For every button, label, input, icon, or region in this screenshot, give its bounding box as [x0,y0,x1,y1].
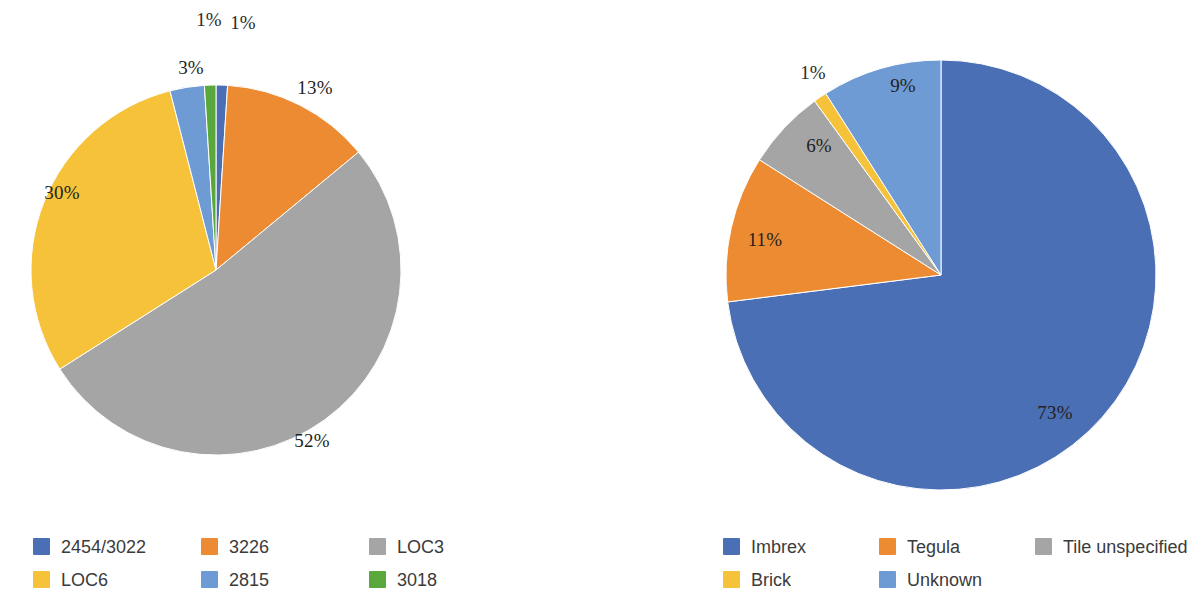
legend-swatch-tile-unspecified [1035,538,1052,555]
pie-slice-percent-label: 6% [806,135,832,156]
right-pie-svg: 73%11%6%1%9% [603,0,1203,520]
pie-slice-percent-label: 11% [748,229,783,250]
legend-item-3226[interactable]: 3226 [201,530,369,563]
legend-item-unknown[interactable]: Unknown [879,563,1035,596]
legend-swatch-imbrex [723,538,740,555]
legend-swatch-loc6 [33,571,50,588]
pie-slice-percent-label: 9% [890,75,916,96]
left-pie-legend: 2454/3022 3226 LOC3 LOC6 2815 3018 [33,530,537,596]
legend-item-2454-3022[interactable]: 2454/3022 [33,530,201,563]
legend-swatch-2815 [201,571,218,588]
pie-slice-percent-label: 3% [178,57,204,78]
legend-label-3018: 3018 [397,571,437,589]
right-pie-chart-panel: 73%11%6%1%9% Imbrex Tegula Tile unspecif… [603,0,1203,605]
legend-swatch-2454-3022 [33,538,50,555]
legend-item-brick[interactable]: Brick [723,563,879,596]
legend-label-loc6: LOC6 [61,571,108,589]
legend-item-2815[interactable]: 2815 [201,563,369,596]
legend-swatch-loc3 [369,538,386,555]
legend-label-imbrex: Imbrex [751,538,806,556]
legend-swatch-brick [723,571,740,588]
legend-swatch-3226 [201,538,218,555]
pie-slice-percent-label: 52% [294,430,329,451]
legend-item-imbrex[interactable]: Imbrex [723,530,879,563]
pie-slice-percent-label: 73% [1037,402,1072,423]
legend-item-loc3[interactable]: LOC3 [369,530,537,563]
legend-item-tegula[interactable]: Tegula [879,530,1035,563]
right-pie-legend: Imbrex Tegula Tile unspecified Brick Unk… [723,530,1203,596]
legend-label-2815: 2815 [229,571,269,589]
legend-label-unknown: Unknown [907,571,982,589]
legend-item-3018[interactable]: 3018 [369,563,537,596]
legend-item-tile-unspecified[interactable]: Tile unspecified [1035,530,1203,563]
legend-label-tile-unspecified: Tile unspecified [1063,538,1187,556]
legend-label-tegula: Tegula [907,538,960,556]
left-pie-svg: 1%13%52%30%3%1% [0,0,600,520]
legend-label-2454-3022: 2454/3022 [61,538,146,556]
pie-charts-figure: 1%13%52%30%3%1% 2454/3022 3226 LOC3 LOC6… [0,0,1203,605]
pie-slice-percent-label: 13% [297,77,332,98]
left-pie-chart-panel: 1%13%52%30%3%1% 2454/3022 3226 LOC3 LOC6… [0,0,600,605]
legend-label-brick: Brick [751,571,791,589]
pie-slice-percent-label: 1% [230,12,256,33]
legend-label-loc3: LOC3 [397,538,444,556]
legend-swatch-tegula [879,538,896,555]
pie-slice-percent-label: 1% [800,62,826,83]
pie-slice-percent-label: 1% [196,9,222,30]
legend-swatch-unknown [879,571,896,588]
legend-label-3226: 3226 [229,538,269,556]
pie-slice-percent-label: 30% [44,182,79,203]
legend-item-loc6[interactable]: LOC6 [33,563,201,596]
legend-swatch-3018 [369,571,386,588]
